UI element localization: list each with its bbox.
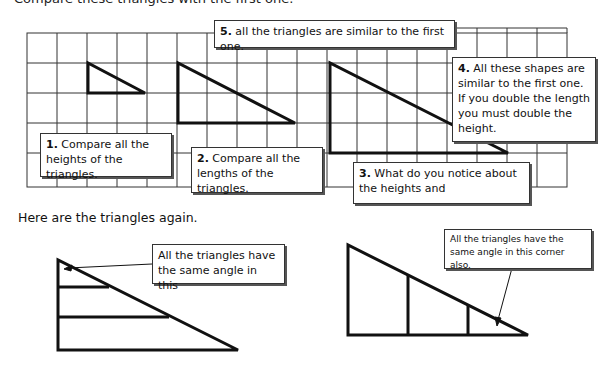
callout-4-number: 4. [458, 62, 470, 75]
callout-2-number: 2. [197, 152, 209, 165]
callout-2: 2. Compare all the lengths of the triang… [191, 147, 323, 193]
right-angle-note-text: All the triangles have the same angle in… [450, 234, 565, 270]
right-angle-note: All the triangles have the same angle in… [444, 229, 592, 269]
callout-1: 1. Compare all the heights of the triang… [40, 133, 172, 177]
callout-3-number: 3. [359, 167, 371, 180]
callout-3-text: What do you notice about the heights and [359, 167, 517, 195]
callout-4-text: All these shapes are similar to the firs… [458, 62, 590, 135]
callout-1-text: Compare all the heights of the triangles… [46, 138, 149, 181]
callout-3: 3. What do you notice about the heights … [353, 162, 530, 204]
callout-5-number: 5. [220, 25, 232, 38]
section-caption: Here are the triangles again. [18, 210, 198, 225]
callout-4: 4. All these shapes are similar to the f… [452, 57, 596, 142]
right-pointer [495, 268, 512, 326]
callout-1-number: 1. [46, 138, 58, 151]
left-angle-note: All the triangles have the same angle in… [152, 244, 285, 284]
callout-5: 5. all the triangles are similar to the … [214, 20, 455, 48]
callout-2-text: Compare all the lengths of the triangles… [197, 152, 300, 195]
